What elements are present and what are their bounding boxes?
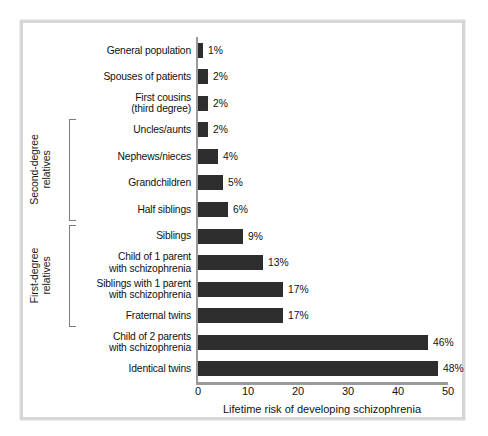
bar-value-label: 2% xyxy=(213,96,228,111)
category-label: Fraternal twins xyxy=(79,310,191,321)
plot-area: 1%2%2%2%4%5%6%9%13%17%17%46%48% 01020304… xyxy=(196,37,448,382)
bar-value-label: 9% xyxy=(248,229,263,244)
bar-value-label: 1% xyxy=(208,43,223,58)
category-label: First cousins (third degree) xyxy=(79,92,191,115)
category-label: Uncles/aunts xyxy=(79,124,191,135)
bar-value-label: 46% xyxy=(433,335,454,350)
group-bracket-second-degree xyxy=(69,119,76,221)
chart-canvas: Second-degree relatives First-degree rel… xyxy=(23,23,462,417)
bar-value-label: 13% xyxy=(268,255,289,270)
group-label-first-degree: First-degree relatives xyxy=(29,220,52,330)
bar-value-label: 2% xyxy=(213,69,228,84)
bar-value-label: 4% xyxy=(223,149,238,164)
x-tick-label: 10 xyxy=(228,385,268,397)
x-tick-label: 40 xyxy=(378,385,418,397)
category-label: Half siblings xyxy=(79,204,191,215)
category-label: Child of 2 parents with schizophrenia xyxy=(79,331,191,354)
bar xyxy=(198,122,208,137)
bar-value-label: 2% xyxy=(213,122,228,137)
bar xyxy=(198,149,218,164)
bar xyxy=(198,361,438,376)
bar xyxy=(198,229,243,244)
category-label: Child of 1 parent with schizophrenia xyxy=(79,251,191,274)
category-label: General population xyxy=(79,45,191,56)
bar-value-label: 17% xyxy=(288,308,309,323)
bar-value-label: 17% xyxy=(288,282,309,297)
bar xyxy=(198,282,283,297)
figure-frame: Second-degree relatives First-degree rel… xyxy=(20,20,465,420)
x-tick-label: 30 xyxy=(328,385,368,397)
group-label-second-degree: Second-degree relatives xyxy=(29,114,52,224)
bar xyxy=(198,175,223,190)
bar xyxy=(198,335,428,350)
category-label: Spouses of patients xyxy=(79,71,191,82)
bar xyxy=(198,96,208,111)
bar-value-label: 6% xyxy=(233,202,248,217)
category-label: Siblings with 1 parent with schizophreni… xyxy=(79,278,191,301)
bar xyxy=(198,202,228,217)
category-label: Siblings xyxy=(79,230,191,241)
bar xyxy=(198,308,283,323)
bar xyxy=(198,255,263,270)
x-axis-label: Lifetime risk of developing schizophreni… xyxy=(162,403,482,415)
x-tick-label: 0 xyxy=(178,385,218,397)
group-bracket-first-degree xyxy=(69,225,76,327)
bar xyxy=(198,43,203,58)
category-label: Identical twins xyxy=(79,363,191,374)
bar-value-label: 48% xyxy=(443,361,464,376)
x-tick-label: 50 xyxy=(428,385,468,397)
bar-value-label: 5% xyxy=(228,175,243,190)
category-label: Grandchildren xyxy=(79,177,191,188)
x-tick-label: 20 xyxy=(278,385,318,397)
bar xyxy=(198,69,208,84)
category-label: Nephews/nieces xyxy=(79,151,191,162)
